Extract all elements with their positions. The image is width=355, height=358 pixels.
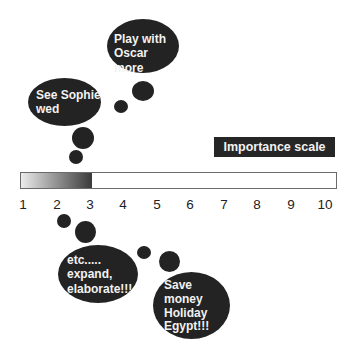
- importance-scale-label: Importance scale: [214, 137, 335, 157]
- bubble-text: Play with Oscar more: [114, 32, 179, 75]
- thought-dot: [75, 221, 96, 243]
- thought-bubble-etc: etc..... expand, elaborate!!!: [58, 245, 138, 303]
- tick-label: 1: [19, 197, 27, 212]
- thought-dot: [114, 100, 128, 113]
- tick-label: 7: [220, 197, 228, 212]
- importance-scale-fill: [21, 173, 92, 188]
- tick-label: 3: [86, 197, 94, 212]
- tick-label: 4: [119, 197, 127, 212]
- bubble-text: See Sophie wed: [36, 88, 101, 117]
- tick-label: 6: [186, 197, 194, 212]
- bubble-text: Save money Holiday Egypt!!!: [164, 279, 209, 334]
- tick-label: 9: [287, 197, 295, 212]
- thought-bubble-save-money: Save money Holiday Egypt!!!: [153, 272, 230, 339]
- tick-label: 5: [153, 197, 161, 212]
- tick-label: 10: [317, 197, 332, 212]
- thought-bubble-play-oscar: Play with Oscar more: [107, 19, 179, 73]
- thought-dot: [69, 150, 83, 164]
- thought-dot: [159, 251, 180, 272]
- importance-scale-bar: [20, 172, 337, 189]
- thought-dot: [137, 246, 151, 259]
- tick-label: 2: [53, 197, 61, 212]
- tick-label: 8: [253, 197, 261, 212]
- thought-dot: [72, 127, 94, 149]
- thought-bubble-see-sophie: See Sophie wed: [28, 78, 101, 126]
- thought-dot: [132, 81, 154, 101]
- bubble-text: etc..... expand, elaborate!!!: [67, 253, 132, 296]
- thought-dot: [57, 214, 71, 228]
